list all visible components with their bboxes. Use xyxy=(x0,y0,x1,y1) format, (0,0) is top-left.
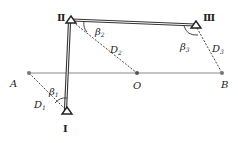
angle-arc-beta2 xyxy=(84,21,87,32)
point-label-a: A xyxy=(9,78,17,89)
station-label-ii: Ⅱ xyxy=(57,12,65,23)
angle-label-beta2: β2 xyxy=(94,26,105,38)
point-o xyxy=(135,71,139,75)
angle-label-beta1: β1 xyxy=(48,86,59,98)
point-b xyxy=(220,71,224,75)
point-label-o: O xyxy=(133,80,141,91)
point-label-b: B xyxy=(220,79,228,90)
distance-label-d2: D2 xyxy=(109,44,122,56)
station-label-iii: Ⅲ xyxy=(203,12,215,23)
angle-label-beta3: β3 xyxy=(179,41,190,53)
distance-label-d3: D3 xyxy=(211,43,224,55)
station-label-i: Ⅰ xyxy=(63,123,68,134)
traverse-leg-i-ii xyxy=(66,22,70,110)
traverse-leg-ii-iii xyxy=(72,20,195,25)
point-a xyxy=(27,71,31,75)
traverse-diagram: Ⅱ Ⅲ Ⅰ A O B β1 β2 β3 D1 D2 D3 xyxy=(0,0,238,143)
distance-label-d1: D1 xyxy=(33,99,46,111)
distance-line-d2 xyxy=(73,22,137,73)
